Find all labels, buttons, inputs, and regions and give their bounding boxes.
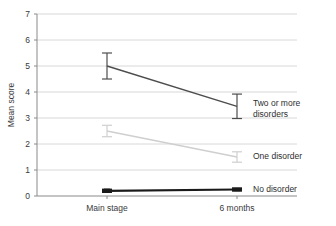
- y-tick-label-4: 4: [25, 87, 30, 97]
- x-tick-label-main-stage: Main stage: [86, 203, 128, 213]
- y-tick-label-2: 2: [25, 139, 30, 149]
- data-marker-0: [102, 189, 112, 193]
- series-line: [107, 190, 237, 191]
- y-tick-label-1: 1: [25, 165, 30, 175]
- data-marker-1: [232, 187, 242, 191]
- series-label-two-or-more-disorders-line2: disorders: [253, 109, 288, 119]
- series-label-no-disorder: No disorder: [253, 184, 297, 194]
- y-axis-title: Mean score: [6, 83, 16, 128]
- y-tick-label-0: 0: [25, 191, 30, 201]
- series-label-one-disorder: One disorder: [253, 151, 302, 161]
- y-tick-label-7: 7: [25, 9, 30, 19]
- y-tick-label-3: 3: [25, 113, 30, 123]
- y-tick-label-5: 5: [25, 61, 30, 71]
- mean-score-line-chart: 01234567 Mean score Main stage 6 months …: [0, 0, 336, 226]
- x-tick-label-6-months: 6 months: [220, 203, 255, 213]
- series-label-two-or-more-disorders-line1: Two or more: [253, 98, 301, 108]
- y-tick-label-6: 6: [25, 35, 30, 45]
- chart-container: 01234567 Mean score Main stage 6 months …: [0, 0, 336, 226]
